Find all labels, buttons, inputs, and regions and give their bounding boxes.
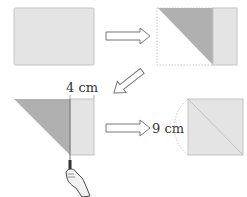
cut-sheet (14, 99, 94, 172)
hand-scissors-icon (66, 160, 90, 197)
right-arrow-icon-2 (106, 120, 150, 136)
folded-sheet (157, 8, 237, 65)
folding-diagram: 4 cm 9 cm (0, 0, 247, 197)
unfolded-square (175, 99, 244, 155)
remaining-strip (213, 8, 237, 65)
down-left-arrow-icon (110, 65, 147, 98)
right-arrow-icon (106, 28, 150, 44)
rectangle-sheet (14, 8, 94, 65)
folded-triangle-cut (14, 99, 70, 155)
strip-to-cut (70, 99, 94, 155)
folded-triangle (158, 8, 213, 65)
square-side-label: 9 cm (152, 121, 184, 136)
strip-width-label: 4 cm (66, 80, 98, 95)
